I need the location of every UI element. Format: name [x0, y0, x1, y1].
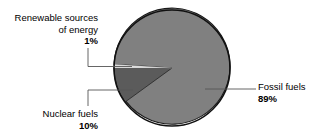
slice-label-renewable-sources: Renewable sources of energy 1%	[6, 12, 98, 47]
energy-sources-pie-chart: Renewable sources of energy 1% Nuclear f…	[0, 0, 314, 139]
slice-label-nuclear-line1: Nuclear fuels	[16, 108, 98, 120]
slice-label-renewable-line2: of energy	[6, 24, 98, 36]
slice-label-fossil-fuels: Fossil fuels 89%	[258, 81, 312, 104]
slice-label-fossil-line1: Fossil fuels	[258, 81, 312, 93]
slice-label-nuclear-value: 10%	[16, 120, 98, 132]
slice-label-renewable-line1: Renewable sources	[6, 12, 98, 24]
slice-label-renewable-value: 1%	[6, 35, 98, 47]
slice-label-nuclear-fuels: Nuclear fuels 10%	[16, 108, 98, 131]
slice-label-fossil-value: 89%	[258, 93, 312, 105]
